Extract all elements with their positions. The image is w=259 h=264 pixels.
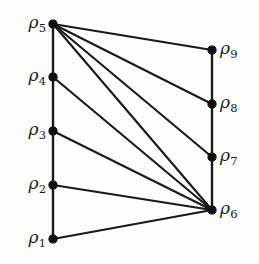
node-dot-rho1[interactable] xyxy=(49,235,57,243)
graph-diagram: ρ1ρ2ρ3ρ4ρ5ρ6ρ7ρ8ρ9 xyxy=(0,0,259,264)
node-dot-rho2[interactable] xyxy=(49,181,57,189)
node-label-rho9: ρ9 xyxy=(220,40,238,60)
node-dot-rho5[interactable] xyxy=(49,20,57,28)
edge-rho5-rho6 xyxy=(53,24,212,210)
node-label-symbol: ρ xyxy=(28,65,38,85)
nodes-layer xyxy=(49,20,216,243)
node-label-symbol: ρ xyxy=(220,198,230,218)
node-dot-rho8[interactable] xyxy=(208,100,216,108)
node-label-rho7: ρ7 xyxy=(220,147,238,167)
node-label-subscript: 8 xyxy=(230,101,237,115)
node-label-subscript: 5 xyxy=(39,21,46,35)
edge-rho5-rho7 xyxy=(53,24,212,157)
node-label-symbol: ρ xyxy=(28,119,38,139)
node-label-rho8: ρ8 xyxy=(220,94,238,114)
node-label-subscript: 4 xyxy=(39,74,46,88)
node-dot-rho6[interactable] xyxy=(208,206,216,214)
node-label-subscript: 1 xyxy=(39,236,46,250)
node-label-symbol: ρ xyxy=(28,12,38,32)
node-label-rho3: ρ3 xyxy=(28,121,46,141)
node-label-symbol: ρ xyxy=(220,92,230,112)
node-label-subscript: 3 xyxy=(39,128,46,142)
edges-layer xyxy=(53,24,212,239)
node-label-rho5: ρ5 xyxy=(28,14,46,34)
node-label-symbol: ρ xyxy=(220,145,230,165)
node-label-rho6: ρ6 xyxy=(220,200,238,220)
node-label-rho1: ρ1 xyxy=(28,229,46,249)
node-label-subscript: 7 xyxy=(230,154,237,168)
edge-rho1-rho6 xyxy=(53,210,212,239)
node-label-symbol: ρ xyxy=(220,38,230,58)
node-dot-rho7[interactable] xyxy=(208,153,216,161)
node-label-subscript: 9 xyxy=(230,47,237,61)
node-label-rho4: ρ4 xyxy=(28,67,46,87)
node-dot-rho3[interactable] xyxy=(49,127,57,135)
node-label-symbol: ρ xyxy=(28,173,38,193)
node-label-symbol: ρ xyxy=(28,227,38,247)
node-label-rho2: ρ2 xyxy=(28,175,46,195)
node-dot-rho4[interactable] xyxy=(49,73,57,81)
node-label-subscript: 2 xyxy=(39,182,46,196)
node-dot-rho9[interactable] xyxy=(208,46,216,54)
node-label-subscript: 6 xyxy=(230,207,237,221)
